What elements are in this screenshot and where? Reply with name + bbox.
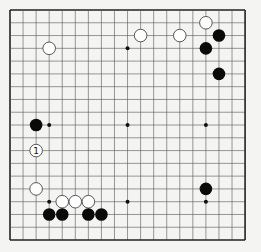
star-point <box>126 46 130 50</box>
star-point <box>126 123 130 127</box>
black-stone <box>95 208 108 221</box>
white-stone <box>82 195 95 208</box>
go-board: 1 <box>0 0 261 252</box>
black-stone <box>213 68 226 81</box>
black-stone <box>56 208 69 221</box>
black-stone <box>43 208 56 221</box>
white-stone <box>56 195 69 208</box>
black-stone <box>200 183 213 196</box>
star-point <box>204 200 208 204</box>
white-stone <box>134 29 147 42</box>
star-point <box>204 123 208 127</box>
star-point <box>126 200 130 204</box>
black-stone <box>30 119 43 132</box>
white-stone <box>173 29 186 42</box>
white-stone <box>30 183 43 196</box>
star-point <box>47 123 51 127</box>
move-number-label: 1 <box>33 146 39 156</box>
black-stone <box>213 29 226 42</box>
white-stone: 1 <box>30 144 43 157</box>
white-stone <box>43 42 56 55</box>
white-stone <box>69 195 82 208</box>
white-stone <box>200 16 213 29</box>
black-stone <box>200 42 213 55</box>
star-point <box>47 200 51 204</box>
black-stone <box>82 208 95 221</box>
